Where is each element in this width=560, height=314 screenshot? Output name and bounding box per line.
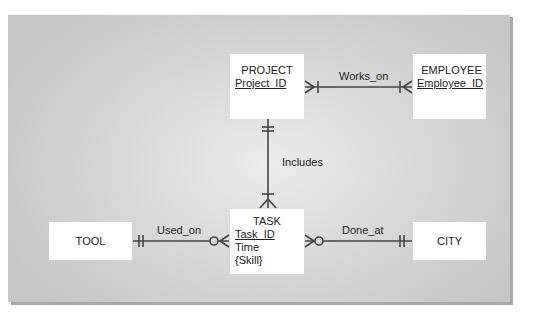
entity-name: TASK xyxy=(230,215,304,228)
primary-key-attribute: Task_ID xyxy=(230,228,304,241)
entity-name: CITY xyxy=(437,235,462,248)
relationship-label-works-on[interactable]: Works_on xyxy=(339,70,388,82)
primary-key-attribute: Project_ID xyxy=(230,77,304,90)
used-on-line xyxy=(133,235,229,247)
entity-employee[interactable]: EMPLOYEE Employee_ID xyxy=(413,54,486,119)
attribute: Time xyxy=(230,241,304,254)
relationship-label-used-on[interactable]: Used_on xyxy=(157,224,201,236)
entity-tool[interactable]: TOOL xyxy=(49,222,132,260)
works-on-line xyxy=(305,81,412,93)
entity-task[interactable]: TASK Task_ID Time {Skill} xyxy=(230,209,304,274)
relationship-label-done-at[interactable]: Done_at xyxy=(342,224,384,236)
primary-key-attribute: Employee_ID xyxy=(413,77,486,90)
entity-name: PROJECT xyxy=(230,64,304,77)
done-at-line xyxy=(305,235,412,247)
multivalued-attribute: {Skill} xyxy=(230,254,304,267)
entity-name: EMPLOYEE xyxy=(413,64,486,77)
relationship-label-includes[interactable]: Includes xyxy=(282,156,323,168)
entity-name: TOOL xyxy=(76,235,106,248)
includes-line xyxy=(260,119,276,208)
entity-city[interactable]: CITY xyxy=(413,222,486,260)
entity-project[interactable]: PROJECT Project_ID xyxy=(230,54,304,119)
